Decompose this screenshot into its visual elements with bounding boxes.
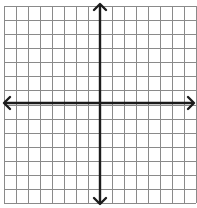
coordinate-grid-svg	[0, 0, 197, 208]
coordinate-plane	[0, 0, 197, 208]
